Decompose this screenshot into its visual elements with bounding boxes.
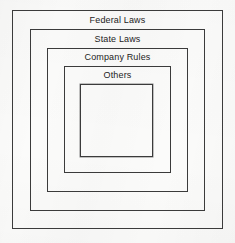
label-state-laws: State Laws xyxy=(30,30,205,48)
rectangle-innermost xyxy=(80,84,153,157)
label-federal-laws: Federal Laws xyxy=(12,11,223,29)
label-company-rules: Company Rules xyxy=(47,49,188,66)
label-others: Others xyxy=(64,67,171,84)
diagram-canvas: Federal Laws State Laws Company Rules Ot… xyxy=(0,0,235,243)
